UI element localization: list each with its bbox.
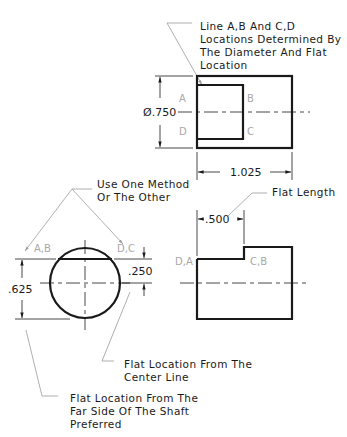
- far-side-dimension: .625: [8, 283, 33, 296]
- center-line-note-line-2: Center Line: [124, 371, 189, 383]
- center-dimension: .250: [128, 265, 153, 278]
- flat-length-note: Flat Length: [272, 186, 335, 198]
- diameter-dimension: Ø.750: [143, 106, 176, 119]
- drawing-canvas: Line A,B And C,D Locations Determined By…: [0, 0, 347, 437]
- center-line-leader-diag: [102, 292, 130, 361]
- top-note-line-4: Location: [200, 59, 248, 71]
- top-note: Line A,B And C,D Locations Determined By…: [199, 20, 341, 71]
- far-side-note-line-3: Preferred: [70, 418, 122, 430]
- method-note-line-1: Use One Method: [97, 178, 190, 190]
- center-line-note: Flat Location From The Center Line: [124, 358, 252, 383]
- far-side-leader-diag: [26, 330, 42, 396]
- label-dc: D,C: [117, 243, 135, 254]
- far-side-note-line-1: Flat Location From The: [70, 392, 198, 404]
- flat-length-leader: [228, 193, 267, 216]
- label-ab: A,B: [34, 243, 51, 254]
- method-note: Use One Method Or The Other: [97, 178, 190, 203]
- center-line-note-line-1: Flat Location From The: [124, 358, 252, 370]
- label-d: D: [179, 126, 187, 137]
- label-c: C: [247, 126, 254, 137]
- top-note-line-1: Line A,B And C,D: [200, 20, 295, 32]
- method-note-line-2: Or The Other: [97, 191, 171, 203]
- top-note-line-3: The Diameter And Flat: [199, 46, 327, 58]
- end-view: A,B D,C .625 .250: [8, 240, 153, 330]
- top-note-line-2: Locations Determined By: [200, 33, 341, 45]
- far-side-note: Flat Location From The Far Side Of The S…: [70, 392, 198, 430]
- label-a: A: [179, 93, 186, 104]
- top-view: A B C D Ø.750 1.025: [143, 76, 310, 180]
- method-leader-ab: [25, 189, 92, 251]
- far-side-note-line-2: Far Side Of The Shaft: [70, 405, 189, 417]
- side-view: D,A C,B .500: [175, 210, 310, 319]
- label-cb: C,B: [250, 256, 267, 267]
- label-da: D,A: [175, 256, 193, 267]
- label-b: B: [247, 93, 254, 104]
- length-dimension: 1.025: [230, 166, 262, 179]
- flat-length-dimension: .500: [205, 213, 230, 226]
